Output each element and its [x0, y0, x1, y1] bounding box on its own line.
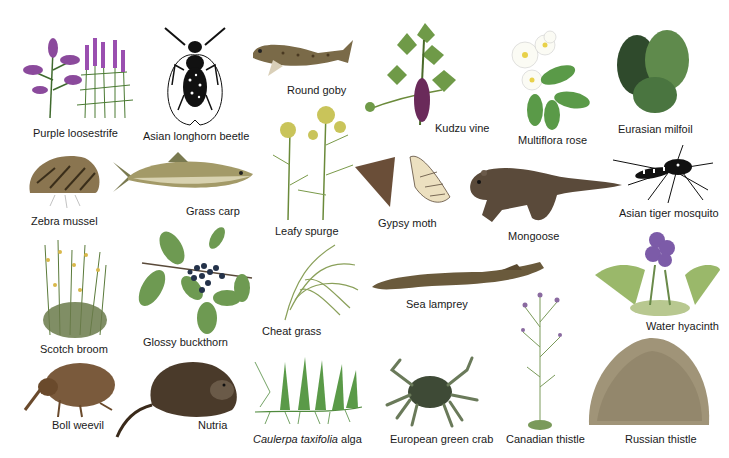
kudzu-vine-illustration	[362, 15, 472, 135]
canadian-thistle-illustration	[515, 287, 570, 432]
mongoose-illustration	[462, 160, 627, 230]
boll-weevil-illustration	[20, 355, 120, 420]
purple-loosestrife-label: Purple loosestrife	[33, 127, 118, 139]
nutria-label: Nutria	[198, 419, 227, 431]
purple-loosestrife-illustration	[15, 30, 145, 120]
asian-tiger-mosquito-illustration	[608, 145, 713, 205]
leafy-spurge-label: Leafy spurge	[275, 225, 339, 237]
european-green-crab-illustration	[372, 350, 492, 430]
multiflora-rose-label: Multiflora rose	[518, 134, 587, 146]
glossy-buckthorn-illustration	[132, 228, 257, 333]
round-goby-illustration	[248, 38, 358, 83]
gypsy-moth-illustration	[355, 152, 465, 212]
cheat-grass-illustration	[280, 240, 360, 325]
eurasian-milfoil-label: Eurasian milfoil	[618, 123, 693, 135]
water-hyacinth-label: Water hyacinth	[646, 320, 719, 332]
eurasian-milfoil-illustration	[615, 30, 695, 115]
gypsy-moth-label: Gypsy moth	[378, 217, 437, 229]
water-hyacinth-illustration	[595, 230, 725, 315]
grass-carp-illustration	[113, 152, 258, 202]
kudzu-vine-label: Kudzu vine	[435, 122, 489, 134]
glossy-buckthorn-label: Glossy buckthorn	[143, 336, 228, 348]
european-green-crab-label: European green crab	[390, 433, 493, 445]
sea-lamprey-label: Sea lamprey	[406, 298, 468, 310]
mongoose-label: Mongoose	[508, 230, 559, 242]
caulerpa-alga-illustration	[250, 352, 365, 432]
scotch-broom-label: Scotch broom	[40, 343, 108, 355]
asian-longhorn-beetle-label: Asian longhorn beetle	[143, 130, 249, 142]
zebra-mussel-label: Zebra mussel	[31, 215, 98, 227]
caulerpa-italic-name: Caulerpa taxifolia	[253, 433, 338, 445]
asian-tiger-mosquito-label: Asian tiger mosquito	[619, 207, 719, 219]
russian-thistle-label: Russian thistle	[625, 433, 697, 445]
caulerpa-taxifolia-alga-label: Caulerpa taxifolia alga	[253, 433, 362, 445]
canadian-thistle-label: Canadian thistle	[506, 433, 585, 445]
asian-longhorn-beetle-illustration	[160, 25, 230, 130]
multiflora-rose-illustration	[500, 25, 590, 130]
russian-thistle-illustration	[587, 333, 712, 428]
scotch-broom-illustration	[40, 240, 110, 340]
zebra-mussel-illustration	[25, 148, 105, 208]
cheat-grass-label: Cheat grass	[262, 325, 321, 337]
leafy-spurge-illustration	[268, 105, 368, 220]
boll-weevil-label: Boll weevil	[52, 419, 104, 431]
round-goby-label: Round goby	[287, 84, 346, 96]
caulerpa-suffix: alga	[338, 433, 362, 445]
grass-carp-label: Grass carp	[186, 205, 240, 217]
